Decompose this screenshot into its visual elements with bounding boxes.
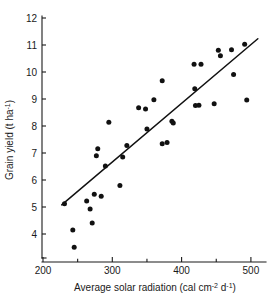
x-axis-ticks: 200300400500	[35, 257, 260, 276]
y-tick-label: 6	[31, 175, 37, 186]
data-point	[199, 62, 204, 67]
data-point	[95, 146, 100, 151]
data-point	[231, 72, 236, 77]
data-point	[242, 42, 247, 47]
y-tick-label: 5	[31, 202, 37, 213]
data-point	[160, 78, 165, 83]
data-point	[62, 201, 67, 206]
data-point	[72, 245, 77, 250]
x-tick-label: 200	[35, 265, 52, 276]
data-point	[171, 121, 176, 126]
y-axis-title: Grain yield (t ha-1)	[4, 100, 16, 180]
y-tick-label: 4	[31, 229, 37, 240]
data-point	[216, 48, 221, 53]
data-point	[88, 206, 93, 211]
data-point	[117, 183, 122, 188]
x-tick-label: 500	[243, 265, 260, 276]
data-point	[212, 101, 217, 106]
y-tick-label: 8	[31, 121, 37, 132]
y-tick-label: 7	[31, 148, 37, 159]
data-point-group	[62, 42, 249, 250]
data-point	[120, 155, 125, 160]
data-point	[90, 220, 95, 225]
data-point	[192, 86, 197, 91]
data-point	[165, 140, 170, 145]
scatter-plot: 456789101112200300400500Average solar ra…	[0, 0, 276, 302]
regression-line	[62, 39, 258, 205]
data-point	[192, 62, 197, 67]
data-point	[94, 153, 99, 158]
y-tick-label: 9	[31, 94, 37, 105]
x-tick-label: 400	[173, 265, 190, 276]
data-point	[92, 192, 97, 197]
data-point	[99, 194, 104, 199]
x-tick-label: 300	[104, 265, 121, 276]
data-point	[106, 120, 111, 125]
data-point	[143, 106, 148, 111]
data-point	[103, 163, 108, 168]
data-point	[70, 227, 75, 232]
y-tick-label: 11	[27, 40, 38, 51]
data-point	[124, 143, 129, 148]
data-point	[229, 47, 234, 52]
data-point	[84, 199, 89, 204]
y-tick-label: 12	[26, 13, 38, 24]
data-point	[196, 103, 201, 108]
data-point	[151, 97, 156, 102]
data-point	[160, 141, 165, 146]
y-tick-label: 10	[26, 67, 38, 78]
data-point	[244, 98, 249, 103]
chart-container: 456789101112200300400500Average solar ra…	[0, 0, 276, 302]
data-point	[218, 53, 223, 58]
x-axis-title: Average solar radiation (cal cm-2 d-1)	[74, 282, 236, 294]
data-point	[144, 126, 149, 131]
data-point	[136, 105, 141, 110]
y-axis-ticks: 456789101112	[26, 13, 46, 240]
